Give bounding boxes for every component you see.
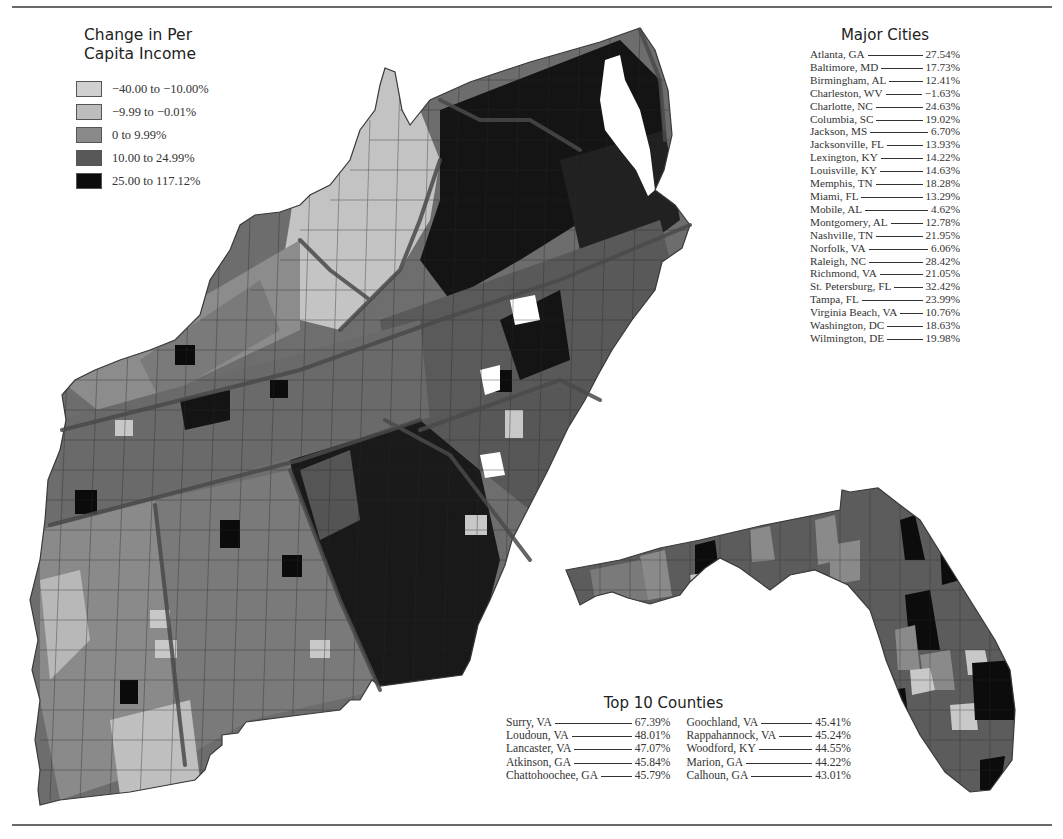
- row-value: 48.01%: [635, 729, 671, 742]
- legend-swatch: [76, 104, 102, 120]
- row-value: 21.05%: [926, 267, 961, 280]
- row-name: Richmond, VA: [810, 267, 877, 280]
- legend-title-line1: Change in Per: [84, 26, 290, 45]
- row-name: Raleigh, NC: [810, 255, 866, 268]
- legend-swatch: [76, 127, 102, 143]
- major-cities-title: Major Cities: [810, 26, 960, 44]
- legend-title-line2: Capita Income: [84, 45, 290, 64]
- legend-label: 10.00 to 24.99%: [112, 151, 195, 166]
- row-value: 45.79%: [635, 769, 671, 782]
- leader-line: [869, 262, 923, 263]
- table-row: Memphis, TN18.28%: [810, 177, 960, 190]
- row-value: 27.54%: [926, 48, 961, 61]
- leader-line: [889, 81, 922, 82]
- top-counties-left-column: Surry, VA67.39%Loudoun, VA48.01%Lancaste…: [506, 716, 671, 782]
- legend-item: −40.00 to −10.00%: [70, 78, 290, 100]
- table-row: Atlanta, GA27.54%: [810, 48, 960, 61]
- row-name: Memphis, TN: [810, 177, 873, 190]
- table-row: Marion, GA44.22%: [687, 756, 852, 769]
- row-value: 19.98%: [926, 332, 961, 345]
- row-name: Calhoun, GA: [687, 769, 749, 782]
- row-value: 47.07%: [635, 742, 671, 755]
- leader-line: [861, 197, 922, 198]
- row-value: 28.42%: [926, 255, 961, 268]
- table-row: Virginia Beach, VA10.76%: [810, 306, 960, 319]
- row-name: Birmingham, AL: [810, 74, 886, 87]
- row-value: 32.42%: [926, 280, 961, 293]
- leader-line: [601, 776, 632, 777]
- row-name: Baltimore, MD: [810, 61, 878, 74]
- table-row: Nashville, TN21.95%: [810, 229, 960, 242]
- row-name: Charleston, WV: [810, 87, 883, 100]
- table-row: Louisville, KY14.63%: [810, 164, 960, 177]
- row-name: Charlotte, NC: [810, 100, 873, 113]
- row-name: Montgomery, AL: [810, 216, 888, 229]
- leader-line: [751, 776, 812, 777]
- leader-line: [876, 107, 923, 108]
- row-value: −1.63%: [925, 87, 960, 100]
- row-name: Marion, GA: [687, 756, 744, 769]
- table-row: Rappahannock, VA45.24%: [687, 729, 852, 742]
- top-counties-table: Top 10 Counties Surry, VA67.39%Loudoun, …: [506, 694, 851, 782]
- row-name: Norfolk, VA: [810, 242, 866, 255]
- row-name: Goochland, VA: [687, 716, 759, 729]
- row-name: Jacksonville, FL: [810, 138, 884, 151]
- leader-line: [869, 249, 929, 250]
- leader-line: [881, 68, 922, 69]
- row-name: Surry, VA: [506, 716, 552, 729]
- table-row: Mobile, AL4.62%: [810, 203, 960, 216]
- table-row: Columbia, SC19.02%: [810, 113, 960, 126]
- leader-line: [555, 723, 632, 724]
- table-row: Miami, FL13.29%: [810, 190, 960, 203]
- row-value: 67.39%: [635, 716, 671, 729]
- table-row: Richmond, VA21.05%: [810, 267, 960, 280]
- row-value: 45.84%: [635, 756, 671, 769]
- row-name: Lancaster, VA: [506, 742, 571, 755]
- table-row: Surry, VA67.39%: [506, 716, 671, 729]
- table-row: Wilmington, DE19.98%: [810, 332, 960, 345]
- table-row: Charleston, WV−1.63%: [810, 87, 960, 100]
- leader-line: [887, 339, 922, 340]
- row-value: 43.01%: [815, 769, 851, 782]
- row-name: Nashville, TN: [810, 229, 873, 242]
- table-row: Tampa, FL23.99%: [810, 293, 960, 306]
- row-name: Rappahannock, VA: [687, 729, 777, 742]
- row-value: 6.70%: [931, 125, 960, 138]
- table-row: Calhoun, GA43.01%: [687, 769, 852, 782]
- row-value: 45.24%: [815, 729, 851, 742]
- row-value: 6.06%: [931, 242, 960, 255]
- leader-line: [891, 223, 923, 224]
- row-value: 17.73%: [926, 61, 961, 74]
- row-name: Lexington, KY: [810, 151, 878, 164]
- table-row: St. Petersburg, FL32.42%: [810, 280, 960, 293]
- row-value: 13.93%: [926, 138, 961, 151]
- table-row: Atkinson, GA45.84%: [506, 756, 671, 769]
- leader-line: [880, 274, 923, 275]
- row-name: Atlanta, GA: [810, 48, 865, 61]
- row-name: Wilmington, DE: [810, 332, 884, 345]
- leader-line: [865, 210, 928, 211]
- row-value: 19.02%: [926, 113, 961, 126]
- table-row: Montgomery, AL12.78%: [810, 216, 960, 229]
- major-cities-table: Major Cities Atlanta, GA27.54%Baltimore,…: [810, 26, 960, 345]
- row-value: 4.62%: [931, 203, 960, 216]
- row-value: 23.99%: [926, 293, 961, 306]
- row-value: 18.28%: [926, 177, 961, 190]
- legend: Change in Per Capita Income −40.00 to −1…: [70, 26, 290, 193]
- leader-line: [876, 184, 923, 185]
- row-name: Virginia Beach, VA: [810, 306, 897, 319]
- legend-item: −9.99 to −0.01%: [70, 101, 290, 123]
- row-name: Washington, DC: [810, 319, 884, 332]
- row-name: Tampa, FL: [810, 293, 859, 306]
- leader-line: [759, 749, 812, 750]
- legend-item: 0 to 9.99%: [70, 124, 290, 146]
- row-name: Mobile, AL: [810, 203, 862, 216]
- legend-title: Change in Per Capita Income: [84, 26, 290, 64]
- legend-label: 0 to 9.99%: [112, 128, 167, 143]
- legend-swatch: [76, 173, 102, 189]
- table-row: Lexington, KY14.22%: [810, 151, 960, 164]
- leader-line: [761, 723, 812, 724]
- table-row: Chattohoochee, GA45.79%: [506, 769, 671, 782]
- table-row: Woodford, KY44.55%: [687, 742, 852, 755]
- leader-line: [880, 171, 922, 172]
